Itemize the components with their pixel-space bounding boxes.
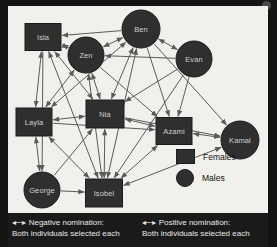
node-ben[interactable]	[122, 10, 160, 48]
edge	[125, 69, 178, 102]
caption-negative-detail: Both individuals selected each	[12, 228, 138, 239]
page-frame-left	[0, 0, 8, 247]
figure-page: IslaBenZenEvanLaylaNiaAzamiKamalGeorgeIs…	[0, 0, 277, 247]
legend-row-females: Females	[176, 149, 266, 164]
caption-positive-title-row: ◂─▸ Positive nomination:	[142, 217, 268, 228]
node-azami[interactable]	[156, 118, 192, 145]
edge	[178, 77, 189, 116]
legend-row-males: Males	[176, 169, 266, 187]
node-evan[interactable]	[176, 41, 212, 77]
caption-negative-title-row: ◂─▸ Negative nomination:	[12, 217, 138, 228]
edge	[36, 52, 42, 108]
edge	[46, 70, 75, 107]
legend: Females Males	[176, 149, 266, 192]
page-frame-right	[268, 0, 277, 247]
caption-negative: ◂─▸ Negative nomination: Both individual…	[8, 214, 138, 247]
edge	[62, 45, 68, 48]
double-arrow-icon: ◂─▸	[12, 219, 26, 227]
edge	[158, 39, 177, 50]
edge	[61, 191, 85, 192]
node-nia[interactable]	[86, 100, 124, 128]
square-swatch-icon	[176, 149, 195, 164]
edge	[54, 129, 92, 175]
caption-negative-title: Negative nomination:	[29, 217, 104, 228]
sociogram-panel: IslaBenZenEvanLaylaNiaAzamiKamalGeorgeIs…	[8, 6, 268, 213]
edge	[103, 38, 123, 47]
edge	[92, 73, 100, 99]
edge	[121, 146, 158, 179]
edge	[53, 116, 85, 120]
legend-label-males: Males	[202, 173, 225, 183]
caption-positive-detail: Both individuals selected each	[142, 228, 268, 239]
node-george[interactable]	[24, 172, 60, 208]
node-isla[interactable]	[25, 24, 61, 51]
caption-positive-title: Positive nomination:	[159, 217, 231, 228]
double-arrow-icon: ◂─▸	[142, 219, 156, 227]
circle-swatch-icon	[176, 169, 194, 187]
caption-area: ◂─▸ Negative nomination: Both individual…	[8, 214, 268, 247]
legend-label-females: Females	[203, 152, 236, 162]
edge	[111, 47, 133, 99]
node-zen[interactable]	[68, 37, 104, 73]
caption-positive: ◂─▸ Positive nomination: Both individual…	[138, 214, 268, 247]
edge	[104, 129, 105, 178]
edge	[36, 137, 40, 171]
edge	[62, 31, 121, 36]
node-layla[interactable]	[16, 108, 52, 136]
node-isobel[interactable]	[86, 179, 123, 207]
